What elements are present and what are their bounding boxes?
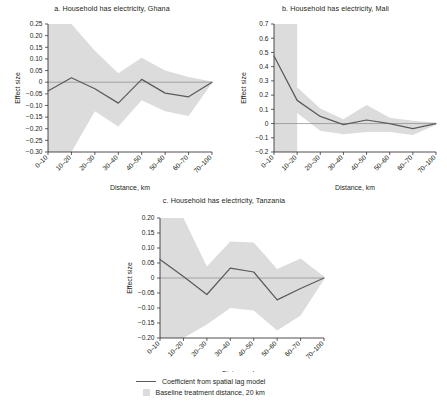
y-tick-label: −0.10 xyxy=(138,304,155,311)
x-tick-label: 30–40 xyxy=(101,154,119,172)
legend-item-coefficient: Coefficient from spatial lag model xyxy=(136,376,311,387)
x-tick-label: 20–30 xyxy=(303,154,321,172)
legend-label-coefficient: Coefficient from spatial lag model xyxy=(162,378,265,385)
x-tick-label: 50–60 xyxy=(260,340,278,358)
x-tick-label: 0–10 xyxy=(33,154,49,170)
x-axis-title: Distance, km xyxy=(222,370,262,372)
y-tick-label: 0.15 xyxy=(142,229,155,236)
x-tick-label: 20–30 xyxy=(78,154,96,172)
x-axis-title: Distance, km xyxy=(110,184,150,191)
figure-container: a. Household has electricity, Ghana 0.25… xyxy=(0,0,447,407)
y-tick-label: −0.30 xyxy=(26,148,43,155)
y-tick-label: −0.05 xyxy=(138,289,155,296)
y-tick-label: 0.7 xyxy=(259,20,268,27)
x-tick-label: 50–60 xyxy=(148,154,166,172)
y-axis-title: Effect size xyxy=(14,72,21,104)
x-tick-label: 40–50 xyxy=(125,154,143,172)
y-tick-label: 0.05 xyxy=(142,259,155,266)
x-tick-label: 40–50 xyxy=(237,340,255,358)
x-tick-label: 40–50 xyxy=(349,154,367,172)
x-tick-label: 70–100 xyxy=(304,340,325,361)
chart-panel-mali: b. Household has electricity, Mali 0.70.… xyxy=(224,4,447,196)
legend-line-swatch-icon xyxy=(136,381,156,382)
y-tick-label: 0.25 xyxy=(30,20,43,27)
x-tick-label: 70–100 xyxy=(416,154,437,175)
y-tick-label: 0 xyxy=(151,274,155,281)
y-tick-label: 0.2 xyxy=(259,91,268,98)
chart-panel-ghana: a. Household has electricity, Ghana 0.25… xyxy=(0,4,224,196)
plot-area-tanzania: 0.200.150.100.050−0.05−0.10−0.15−0.200–1… xyxy=(112,196,336,372)
x-tick-label: 30–40 xyxy=(213,340,231,358)
x-tick-label: 10–20 xyxy=(166,340,184,358)
chart-legend: Coefficient from spatial lag model Basel… xyxy=(0,376,447,398)
y-tick-label: −0.2 xyxy=(255,148,268,155)
y-tick-label: −0.20 xyxy=(138,334,155,341)
y-tick-label: 0.5 xyxy=(259,49,268,56)
y-tick-label: 0.10 xyxy=(30,55,43,62)
panel-title-ghana: a. Household has electricity, Ghana xyxy=(0,4,224,13)
x-tick-label: 10–20 xyxy=(54,154,72,172)
legend-label-baseline: Baseline treatment distance, 20 km xyxy=(156,389,265,396)
panel-title-tanzania: c. Household has electricity, Tanzania xyxy=(112,196,336,205)
panel-title-mali: b. Household has electricity, Mali xyxy=(224,4,447,13)
x-tick-label: 60–70 xyxy=(283,340,301,358)
x-tick-label: 30–40 xyxy=(326,154,344,172)
y-tick-label: 0.4 xyxy=(259,63,268,70)
y-tick-label: −0.1 xyxy=(255,134,268,141)
legend-box-swatch-icon xyxy=(143,389,150,396)
x-tick-label: 70–100 xyxy=(192,154,213,175)
confidence-band xyxy=(274,24,436,135)
x-tick-label: 0–10 xyxy=(145,340,161,356)
y-tick-label: 0.05 xyxy=(30,67,43,74)
y-tick-label: −0.05 xyxy=(26,90,43,97)
y-tick-label: 0.3 xyxy=(259,77,268,84)
y-tick-label: 0.20 xyxy=(30,32,43,39)
y-tick-label: −0.15 xyxy=(26,113,43,120)
x-tick-label: 10–20 xyxy=(280,154,298,172)
y-tick-label: 0 xyxy=(39,78,43,85)
y-tick-label: −0.10 xyxy=(26,102,43,109)
y-tick-label: 0.1 xyxy=(259,106,268,113)
y-tick-label: −0.15 xyxy=(138,319,155,326)
y-tick-label: 0 xyxy=(265,120,269,127)
y-axis-title: Effect size xyxy=(126,262,133,294)
chart-panel-tanzania: c. Household has electricity, Tanzania 0… xyxy=(112,196,336,372)
legend-item-baseline: Baseline treatment distance, 20 km xyxy=(136,387,311,398)
y-tick-label: −0.20 xyxy=(26,125,43,132)
plot-area-mali: 0.70.60.50.40.30.20.10−0.1−0.20–1010–202… xyxy=(224,4,447,196)
x-tick-label: 50–60 xyxy=(373,154,391,172)
x-tick-label: 0–10 xyxy=(259,154,275,170)
y-tick-label: 0.10 xyxy=(142,244,155,251)
y-tick-label: 0.20 xyxy=(142,214,155,221)
x-tick-label: 60–70 xyxy=(396,154,414,172)
x-tick-label: 60–70 xyxy=(171,154,189,172)
x-tick-label: 20–30 xyxy=(190,340,208,358)
y-tick-label: −0.25 xyxy=(26,137,43,144)
y-axis-title: Effect size xyxy=(240,72,247,104)
plot-area-ghana: 0.250.200.150.100.050−0.05−0.10−0.15−0.2… xyxy=(0,4,224,196)
x-axis-title: Distance, km xyxy=(335,184,375,191)
y-tick-label: 0.15 xyxy=(30,44,43,51)
confidence-band xyxy=(48,24,212,152)
y-tick-label: 0.6 xyxy=(259,35,268,42)
